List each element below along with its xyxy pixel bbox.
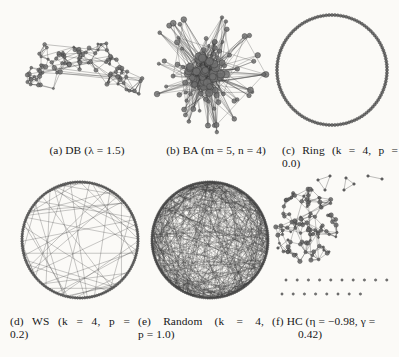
caption-b-line1: (b) BA (m = 5, n = 4) — [166, 144, 266, 156]
panel-f-hc-graph — [268, 168, 399, 312]
panel-c-ring-graph — [268, 4, 396, 140]
caption-f-line1: (f) HC (η = −0.98, γ = — [272, 315, 398, 328]
caption-d-line2: 0.2) — [10, 328, 130, 341]
caption-b: (b) BA (m = 5, n = 4) — [152, 144, 280, 157]
caption-e: (e) Random (k = 4, p = 1.0) — [138, 315, 264, 342]
caption-f-line2: 0.42) — [272, 328, 398, 341]
panel-a-db-graph — [8, 4, 148, 142]
figure-sheet: (a) DB (λ = 1.5) (b) BA (m = 5, n = 4) (… — [0, 0, 399, 357]
caption-f: (f) HC (η = −0.98, γ = 0.42) — [272, 315, 398, 342]
panel-d-ws-graph — [16, 176, 146, 308]
caption-a: (a) DB (λ = 1.5) — [27, 144, 147, 157]
panel-b-ba-graph — [138, 4, 270, 142]
caption-e-line1: (e) Random (k = 4, — [138, 315, 264, 328]
figure-grid: (a) DB (λ = 1.5) (b) BA (m = 5, n = 4) (… — [0, 0, 399, 357]
caption-a-line1: (a) DB (λ = 1.5) — [49, 144, 124, 156]
caption-e-line2: p = 1.0) — [138, 328, 264, 341]
caption-c-line1: (c) Ring (k = 4, p = — [282, 144, 398, 157]
panel-e-random-graph — [146, 176, 276, 308]
caption-c: (c) Ring (k = 4, p = 0.0) — [282, 144, 398, 171]
caption-d: (d) WS (k = 4, p = 0.2) — [10, 315, 130, 342]
caption-d-line1: (d) WS (k = 4, p = — [10, 315, 130, 328]
